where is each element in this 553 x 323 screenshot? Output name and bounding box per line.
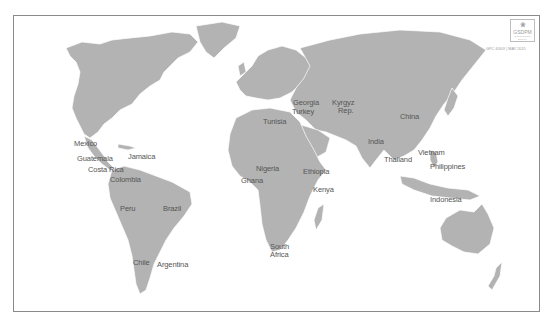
caribbean-islands [118, 144, 136, 150]
country-label-indonesia: Indonesia [430, 196, 462, 204]
new-zealand-islands [488, 262, 502, 290]
north-america-landmass [66, 32, 198, 138]
document-reference: GPC 4/00X | MAY 2015 [486, 47, 526, 51]
country-label-ethiopia: Ethiopia [303, 168, 329, 176]
country-label-chile: Chile [133, 259, 150, 267]
country-label-peru: Peru [120, 205, 135, 213]
logo-subtext: Global Service Delivery [511, 35, 534, 41]
country-label-colombia: Colombia [110, 176, 141, 184]
south-america-landmass [108, 166, 192, 294]
country-label-tunisia: Tunisia [263, 118, 286, 126]
australia-landmass [440, 204, 494, 254]
country-label-brazil: Brazil [163, 205, 181, 213]
greenland-landmass [196, 22, 240, 58]
country-label-argentina: Argentina [157, 261, 188, 269]
country-label-turkey: Turkey [292, 108, 314, 116]
madagascar-island [314, 204, 324, 230]
organization-logo: ❀ GSDPM Global Service Delivery [510, 19, 535, 42]
country-label-china: China [400, 113, 419, 121]
country-label-guatemala: Guatemala [77, 155, 113, 163]
country-label-costa-rica: Costa Rica [88, 166, 124, 174]
country-label-georgia: Georgia [293, 99, 319, 107]
country-label-philippines: Philippines [430, 163, 465, 171]
country-label-kenya: Kenya [313, 186, 334, 194]
country-label-thailand: Thailand [384, 156, 412, 164]
country-label-nigeria: Nigeria [256, 165, 279, 173]
country-label-mexico: Mexico [74, 140, 97, 148]
country-label-ghana: Ghana [241, 177, 263, 185]
country-label-africa: Africa [270, 251, 289, 259]
people-cluster-icon: ❀ [511, 21, 534, 29]
country-label-rep-: Rep. [338, 107, 353, 115]
country-label-vietnam: Vietnam [418, 149, 445, 157]
country-label-jamaica: Jamaica [128, 153, 155, 161]
country-label-india: India [368, 138, 384, 146]
